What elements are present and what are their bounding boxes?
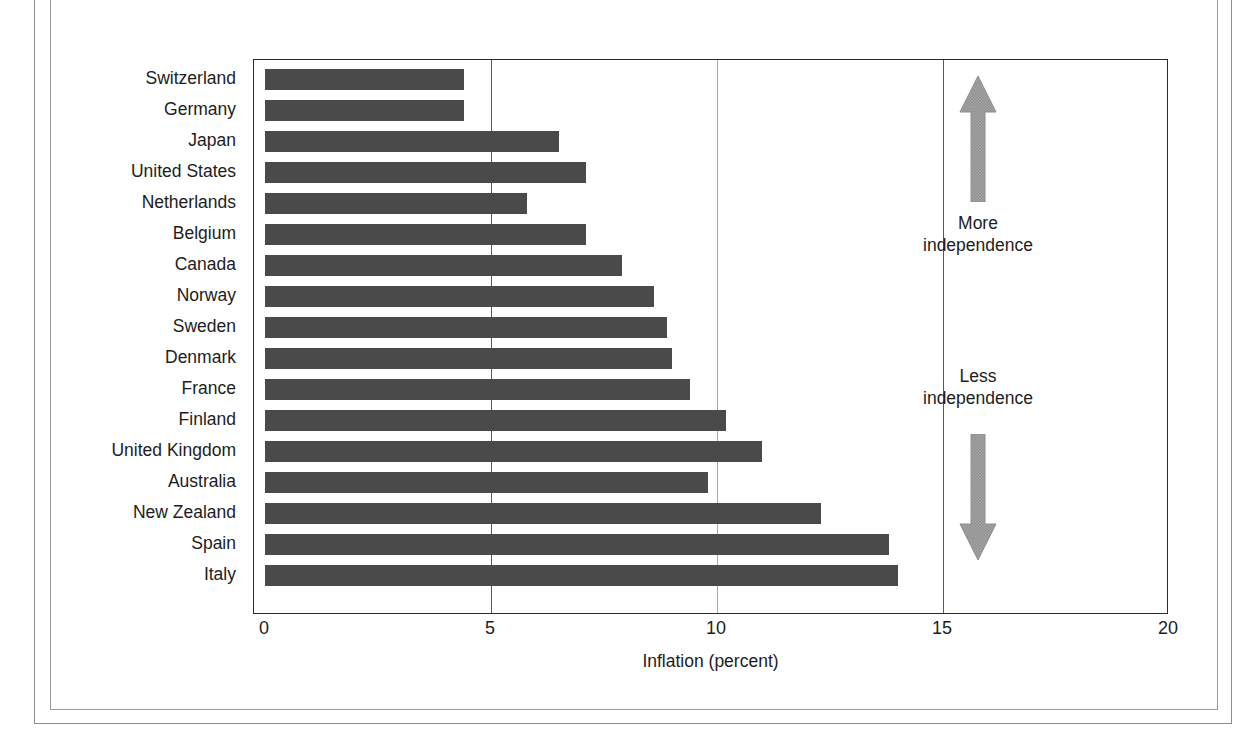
more-independence-caption: More independence (878, 212, 1078, 256)
bar-australia (265, 472, 708, 493)
x-tick-0: 0 (259, 618, 269, 639)
bar-finland (265, 410, 726, 431)
x-tick-5: 5 (485, 618, 495, 639)
y-label-japan: Japan (188, 125, 236, 156)
bar-row (265, 64, 1167, 95)
x-tick-10: 10 (706, 618, 726, 639)
less-independence-line1: Less (878, 365, 1078, 387)
y-label-italy: Italy (204, 559, 236, 590)
bar-denmark (265, 348, 672, 369)
y-label-switzerland: Switzerland (146, 63, 236, 94)
bar-row (265, 281, 1167, 312)
more-independence-arrow (958, 76, 998, 206)
bar-united-kingdom (265, 441, 762, 462)
bar-switzerland (265, 69, 464, 90)
x-tick-15: 15 (932, 618, 952, 639)
bar-row (265, 436, 1167, 467)
bar-norway (265, 286, 654, 307)
inflation-central-bank-independence-chart: SwitzerlandGermanyJapanUnited StatesNeth… (0, 0, 1244, 747)
x-axis-title: Inflation (percent) (253, 651, 1168, 672)
plot-area: More independence Less independence (253, 59, 1168, 614)
bar-germany (265, 100, 464, 121)
bar-sweden (265, 317, 667, 338)
y-label-norway: Norway (177, 280, 236, 311)
y-axis-category-labels: SwitzerlandGermanyJapanUnited StatesNeth… (0, 59, 245, 614)
y-label-sweden: Sweden (173, 311, 236, 342)
y-label-france: France (182, 373, 236, 404)
bar-united-states (265, 162, 586, 183)
bar-row (265, 467, 1167, 498)
y-label-denmark: Denmark (165, 342, 236, 373)
y-label-netherlands: Netherlands (142, 187, 236, 218)
y-label-united-states: United States (131, 156, 236, 187)
less-independence-arrow (958, 434, 998, 564)
bar-new-zealand (265, 503, 821, 524)
y-label-finland: Finland (179, 404, 236, 435)
less-independence-caption: Less independence (878, 365, 1078, 409)
bar-row (265, 95, 1167, 126)
y-label-australia: Australia (168, 466, 236, 497)
y-label-germany: Germany (164, 94, 236, 125)
y-label-spain: Spain (191, 528, 236, 559)
bar-japan (265, 131, 559, 152)
x-tick-20: 20 (1158, 618, 1178, 639)
bar-spain (265, 534, 889, 555)
bar-row (265, 405, 1167, 436)
bar-row (265, 498, 1167, 529)
y-label-united-kingdom: United Kingdom (111, 435, 236, 466)
bar-netherlands (265, 193, 527, 214)
x-axis-tick-labels: 05101520 (253, 618, 1168, 648)
more-independence-line1: More (878, 212, 1078, 234)
y-label-belgium: Belgium (173, 218, 236, 249)
bar-belgium (265, 224, 586, 245)
bar-canada (265, 255, 622, 276)
more-independence-line2: independence (878, 234, 1078, 256)
bar-row (265, 312, 1167, 343)
bar-row (265, 529, 1167, 560)
bar-france (265, 379, 690, 400)
bar-row (265, 126, 1167, 157)
bars-layer (265, 60, 1167, 613)
y-label-new-zealand: New Zealand (133, 497, 236, 528)
bar-row (265, 157, 1167, 188)
bar-italy (265, 565, 898, 586)
y-label-canada: Canada (175, 249, 236, 280)
less-independence-line2: independence (878, 387, 1078, 409)
bar-row (265, 560, 1167, 591)
